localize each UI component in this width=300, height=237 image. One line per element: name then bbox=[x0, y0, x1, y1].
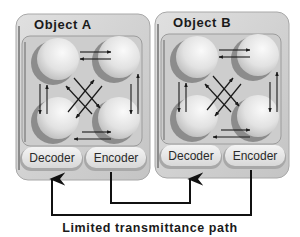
object-a-panel: Object A Decoder Encoder bbox=[16, 14, 150, 180]
caption-limited-transmittance-path: Limited transmittance path bbox=[62, 221, 237, 235]
object-b-title: Object B bbox=[173, 15, 231, 30]
object-b-panel: Object B Decoder Encoder bbox=[155, 12, 289, 178]
diagram-canvas: Object A Decoder Encoder Object B Decode… bbox=[0, 0, 300, 237]
object-a-encoder: Encoder bbox=[94, 151, 139, 165]
object-b-decoder: Decoder bbox=[168, 149, 213, 163]
object-b-encoder: Encoder bbox=[233, 149, 278, 163]
object-a-decoder: Decoder bbox=[29, 151, 74, 165]
object-a-title: Object A bbox=[34, 17, 92, 32]
